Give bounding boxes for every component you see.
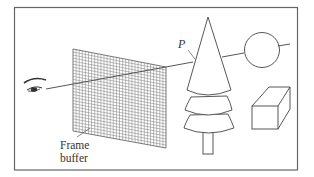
ray-casting-diagram: Frame buffer P xyxy=(0,0,314,177)
frame-buffer-label-line1: Frame xyxy=(60,139,89,151)
point-p-label: P xyxy=(177,37,186,51)
frame-buffer-label-line2: buffer xyxy=(60,152,88,164)
tree-tier-middle xyxy=(185,96,232,115)
tree-tier-bottom xyxy=(184,114,234,133)
tree-trunk xyxy=(203,132,213,154)
